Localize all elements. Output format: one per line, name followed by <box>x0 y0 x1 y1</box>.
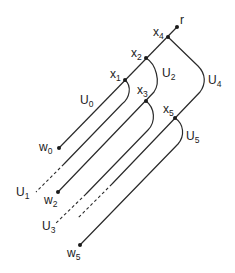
U3-label: U3 <box>42 219 56 235</box>
branch-x4-dashed <box>78 184 112 218</box>
w0-label: w0 <box>38 140 53 156</box>
branch-x1-dashed <box>36 164 64 192</box>
x5-label: x5 <box>163 102 174 118</box>
x2-dot <box>144 56 148 60</box>
U0-label: U0 <box>80 93 94 109</box>
x4-dot <box>166 35 170 39</box>
branch-x5-line <box>80 118 183 245</box>
w5-dot <box>78 243 82 247</box>
branch-x4-line <box>112 37 204 184</box>
x1-label: x1 <box>110 67 121 83</box>
w0-dot <box>57 146 61 150</box>
x1-dot <box>123 78 127 82</box>
x3-dot <box>144 99 148 103</box>
x2-label: x2 <box>131 46 142 62</box>
x4-label: x4 <box>153 25 164 41</box>
U4-label: U4 <box>208 73 222 89</box>
U2-label: U2 <box>162 66 176 82</box>
w2-label: w2 <box>43 193 58 209</box>
U1-label: U1 <box>16 185 30 201</box>
tree-diagram: r x4 x2 x1 x3 x5 w0 w2 w5 U0 U1 U2 U3 U4… <box>0 0 235 273</box>
x3-label: x3 <box>137 83 148 99</box>
diagram-svg: r x4 x2 x1 x3 x5 w0 w2 w5 U0 U1 U2 U3 U4… <box>0 0 235 273</box>
w5-label: w5 <box>66 246 81 262</box>
w2-dot <box>56 190 60 194</box>
root-label: r <box>180 13 184 27</box>
root-dot <box>175 25 179 29</box>
U5-label: U5 <box>186 129 200 145</box>
branch-x3-dashed <box>55 194 86 224</box>
